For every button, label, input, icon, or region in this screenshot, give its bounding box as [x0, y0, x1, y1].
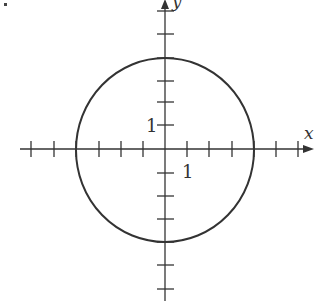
y-axis-arrow-icon — [161, 0, 169, 9]
x-axis-label: x — [304, 123, 314, 143]
x-axis — [20, 141, 314, 157]
y-axis — [157, 0, 174, 301]
bullet-mark — [4, 3, 7, 6]
y-tick-label-1: 1 — [146, 115, 157, 136]
x-tick-label-1: 1 — [182, 161, 193, 182]
coordinate-plane: x y 1 1 — [0, 0, 320, 301]
x-axis-arrow-icon — [303, 145, 314, 153]
y-axis-label: y — [171, 0, 182, 11]
